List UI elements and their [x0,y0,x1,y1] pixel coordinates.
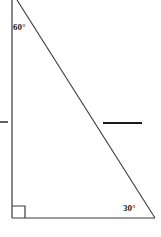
hypotenuse-line [17,0,155,218]
right-angle-marker-icon [12,206,25,218]
angle-label-bottom-right: 30° [123,204,136,213]
angle-label-top: 60° [13,23,26,32]
triangle-diagram [0,0,161,237]
geometry-figure: 60° 30° [0,0,161,237]
